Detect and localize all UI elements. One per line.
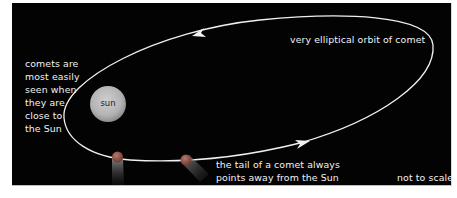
visibility-note-line: the Sun	[25, 122, 80, 135]
orbit-label: very elliptical orbit of comet	[290, 33, 425, 46]
visibility-note-line: most easily	[25, 70, 80, 83]
visibility-note-line: seen when	[25, 83, 80, 96]
orbit-direction-arrow-bottom	[295, 140, 310, 149]
visibility-note-line: they are	[25, 96, 80, 109]
tail-note-line: the tail of a comet always	[216, 158, 340, 171]
tail-note: the tail of a comet always points away f…	[216, 158, 340, 184]
sun-label: sun	[96, 97, 120, 109]
scale-note: not to scale	[397, 171, 453, 184]
tail-note-line: points away from the Sun	[216, 171, 340, 184]
comet-1-icon	[112, 152, 124, 186]
visibility-note-line: close to	[25, 109, 80, 122]
visibility-note-line: comets are	[25, 57, 80, 70]
visibility-note: comets are most easily seen when they ar…	[25, 57, 80, 135]
